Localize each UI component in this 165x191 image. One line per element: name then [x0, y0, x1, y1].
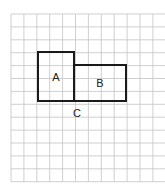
rectangles: AB	[38, 52, 126, 101]
label-b: B	[96, 77, 103, 89]
point-label-c: C	[73, 107, 81, 119]
grid-lines	[11, 14, 165, 182]
label-a: A	[52, 71, 60, 83]
grid-diagram: AB C	[0, 0, 165, 191]
